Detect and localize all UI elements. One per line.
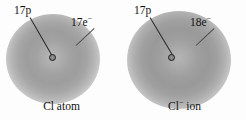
label-electrons-ion: 18e− (190, 17, 211, 29)
label-electrons-ion-charge: − (207, 14, 212, 23)
atom-ion-comparison-figure: 17p 17e− Cl atom 17p 18e− Cl− ion (0, 0, 246, 120)
label-electrons-ion-base: 18e (190, 16, 207, 28)
label-protons-atom: 17p (14, 5, 31, 17)
caption-chloride-ion: Cl− ion (123, 101, 246, 113)
nucleus-ion (168, 54, 175, 61)
label-electrons-atom-charge: − (88, 14, 93, 23)
panel-chlorine-atom: 17p 17e− Cl atom (0, 0, 123, 120)
caption-chloride-ion-tail: ion (183, 100, 201, 112)
label-protons-ion: 17p (134, 5, 151, 17)
caption-chlorine-atom: Cl atom (0, 101, 123, 113)
panel-chloride-ion: 17p 18e− Cl− ion (123, 0, 246, 120)
caption-chloride-ion-symbol: Cl (168, 100, 179, 112)
electron-cloud-ion (127, 11, 231, 109)
nucleus-atom (49, 54, 56, 61)
label-electrons-atom: 17e− (71, 17, 92, 29)
label-electrons-atom-base: 17e (71, 16, 88, 28)
